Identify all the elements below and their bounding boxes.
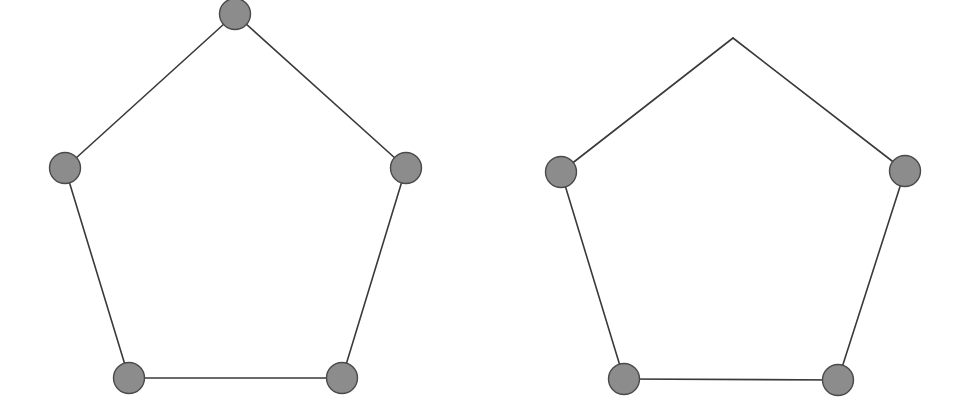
node-lower-left [609,364,640,395]
edge-lower-left-upper-left [65,168,129,378]
edge-top-upper-right [733,38,905,171]
node-lower-left [114,363,145,394]
left-pentagon-graph [50,0,422,394]
edge-top-upper-right [235,14,406,168]
edge-upper-left-top [65,14,235,168]
node-upper-right [391,153,422,184]
node-upper-left [50,153,81,184]
edge-upper-left-top [561,38,733,172]
diagram-canvas [0,0,970,420]
node-lower-right [327,363,358,394]
edge-lower-right-lower-left [624,379,838,380]
node-upper-right [890,156,921,187]
node-upper-left [546,157,577,188]
node-top [220,0,251,30]
edge-upper-right-lower-right [838,171,905,380]
node-lower-right [823,365,854,396]
edge-upper-right-lower-right [342,168,406,378]
edge-lower-left-upper-left [561,172,624,379]
right-pentagon-graph [546,38,921,396]
